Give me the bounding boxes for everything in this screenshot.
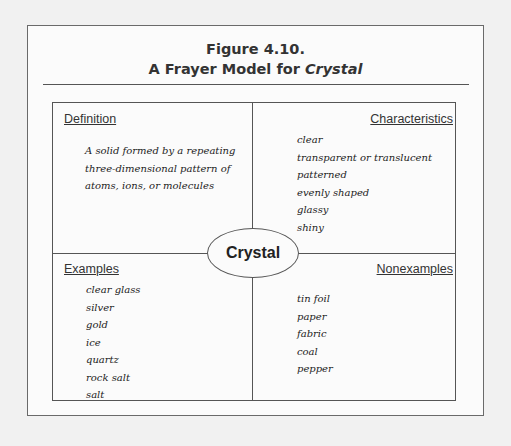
list-item: shiny bbox=[297, 219, 432, 237]
list-item: tin foil bbox=[297, 290, 333, 308]
center-term-oval: Crystal bbox=[207, 228, 299, 278]
definition-text: A solid formed by a repeating three-dime… bbox=[85, 142, 235, 195]
list-item: paper bbox=[297, 308, 333, 326]
list-item: ice bbox=[86, 334, 140, 352]
list-item: fabric bbox=[297, 325, 333, 343]
characteristics-list: clear transparent or translucent pattern… bbox=[297, 131, 432, 236]
list-item: rock salt bbox=[86, 369, 140, 387]
list-item: gold bbox=[86, 316, 140, 334]
definition-line: three-dimensional pattern of bbox=[85, 160, 235, 178]
figure-title-term: Crystal bbox=[305, 61, 363, 77]
nonexamples-list: tin foil paper fabric coal pepper bbox=[297, 290, 333, 378]
list-item: clear glass bbox=[86, 281, 140, 299]
list-item: coal bbox=[297, 343, 333, 361]
definition-line: A solid formed by a repeating bbox=[85, 142, 235, 160]
figure-title-prefix: A Frayer Model for bbox=[149, 61, 305, 77]
definition-heading: Definition bbox=[64, 112, 116, 126]
figure-title: A Frayer Model for Crystal bbox=[0, 59, 511, 79]
nonexamples-heading: Nonexamples bbox=[377, 262, 453, 276]
figure-number: Figure 4.10. bbox=[0, 39, 511, 59]
list-item: patterned bbox=[297, 166, 432, 184]
list-item: pepper bbox=[297, 360, 333, 378]
list-item: transparent or translucent bbox=[297, 149, 432, 167]
list-item: clear bbox=[297, 131, 432, 149]
list-item: quartz bbox=[86, 351, 140, 369]
list-item: salt bbox=[86, 386, 140, 404]
title-divider bbox=[43, 84, 469, 85]
list-item: silver bbox=[86, 299, 140, 317]
list-item: evenly shaped bbox=[297, 184, 432, 202]
list-item: glassy bbox=[297, 201, 432, 219]
examples-list: clear glass silver gold ice quartz rock … bbox=[86, 281, 140, 404]
characteristics-heading: Characteristics bbox=[370, 112, 453, 126]
definition-line: atoms, ions, or molecules bbox=[85, 177, 235, 195]
examples-heading: Examples bbox=[64, 262, 119, 276]
